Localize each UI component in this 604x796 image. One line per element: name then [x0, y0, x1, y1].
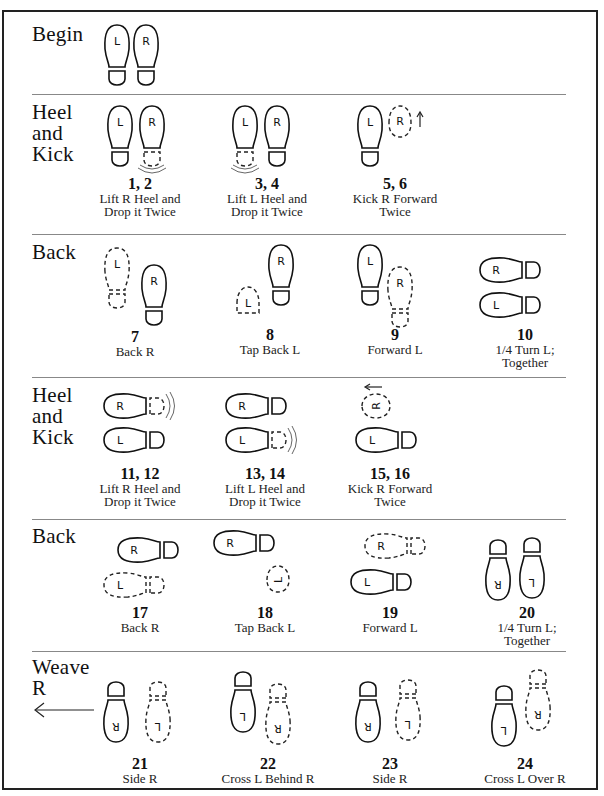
step-description: Forward L [330, 343, 460, 356]
step-number: 9 [330, 327, 460, 343]
step-18-figure: R L [210, 525, 310, 601]
step-1-2-figure: L R [100, 105, 180, 177]
step-description: Tap Back L [200, 621, 330, 634]
footprint-icon: R [214, 531, 274, 555]
footprint-icon: L [492, 686, 516, 746]
step-5-6: 5, 6 Kick R Forward Twice [330, 176, 460, 218]
arrow-icon [32, 700, 96, 720]
section-label-heel-and-kick: Heel and Kick [32, 102, 74, 165]
step-number: 24 [460, 756, 590, 772]
footprint-icon: R [265, 106, 289, 166]
arrow-icon [365, 384, 382, 390]
svg-text:R: R [396, 277, 404, 290]
svg-text:L: L [367, 116, 374, 129]
step-number: 10 [460, 327, 590, 343]
step-description: Cross L Behind R [203, 772, 333, 785]
footprint-icon: L [520, 538, 544, 598]
step-7-figure: L R [100, 245, 180, 333]
step-20-figure: R L [478, 530, 558, 606]
svg-text:L: L [367, 255, 374, 268]
svg-text:L: L [369, 434, 376, 447]
section-label-back-2: Back [32, 526, 76, 547]
svg-text:R: R [492, 264, 500, 277]
step-description: Tap Back L [205, 343, 335, 356]
svg-text:L: L [114, 258, 121, 271]
divider [32, 234, 566, 235]
step-description: 1/4 Turn L; Together [460, 343, 590, 369]
step-17-figure: R L [100, 530, 200, 602]
step-17: 17 Back R [75, 605, 205, 634]
step-description: Lift R Heel and Drop it Twice [75, 482, 205, 508]
footprint-icon: L [108, 106, 132, 166]
step-number: 23 [325, 756, 455, 772]
step-18: 18 Tap Back L [200, 605, 330, 634]
svg-text:R: R [150, 275, 158, 288]
section-label-begin: Begin [32, 24, 83, 45]
footprint-icon: R [118, 538, 178, 562]
svg-text:L: L [239, 710, 246, 723]
step-5-6-figure: L R [350, 105, 430, 177]
step-15-16-figure: R L [350, 380, 440, 462]
step-7: 7 Back R [70, 329, 200, 358]
step-9: 9 Forward L [330, 327, 460, 356]
footprint-dashed-icon: L [146, 682, 170, 742]
svg-text:R: R [148, 116, 156, 129]
step-number: 1, 2 [75, 176, 205, 192]
step-3-4-figure: L R [225, 105, 305, 177]
step-8-figure: R L [228, 243, 308, 323]
step-number: 8 [205, 327, 335, 343]
step-description: Back R [70, 345, 200, 358]
svg-text:R: R [277, 255, 285, 268]
step-9-figure: L R [350, 243, 430, 335]
footprint-icon: R [269, 245, 293, 305]
footprint-dashed-icon: R [266, 684, 290, 744]
step-description: Kick R Forward Twice [325, 482, 455, 508]
svg-text:L: L [493, 299, 500, 312]
step-description: Lift L Heel and Drop it Twice [200, 482, 330, 508]
step-20: 20 1/4 Turn L; Together [462, 605, 592, 647]
footprint-icon: L [351, 570, 411, 594]
svg-text:R: R [130, 544, 138, 557]
step-23: 23 Side R [325, 756, 455, 785]
svg-text:R: R [274, 722, 282, 735]
svg-text:L: L [114, 35, 121, 48]
svg-text:L: L [245, 297, 252, 310]
svg-text:R: R [238, 400, 246, 413]
footprint-icon: R [480, 258, 540, 282]
step-8: 8 Tap Back L [205, 327, 335, 356]
footprint-icon: R [142, 265, 166, 325]
step-description: Side R [325, 772, 455, 785]
footprint-icon: R [226, 394, 286, 418]
svg-text:R: R [142, 35, 150, 48]
footprint-dashed-icon: L [396, 680, 420, 740]
footprint-icon: R [104, 394, 164, 418]
footprint-icon: L [356, 428, 416, 452]
step-13-14: 13, 14 Lift L Heel and Drop it Twice [200, 466, 330, 508]
footprint-dashed-icon: R [388, 267, 412, 327]
footprint-icon: L [233, 106, 257, 166]
footprint-icon: L [231, 672, 255, 732]
divider [32, 519, 566, 520]
section-label-back: Back [32, 242, 76, 263]
step-description: Lift R Heel and Drop it Twice [75, 192, 205, 218]
step-description: Side R [75, 772, 205, 785]
step-number: 5, 6 [330, 176, 460, 192]
step-description: Forward L [325, 621, 455, 634]
step-number: 7 [70, 329, 200, 345]
svg-text:L: L [500, 724, 507, 737]
footprint-dashed-icon: L [104, 573, 164, 597]
step-description: Cross L Over R [460, 772, 590, 785]
footprint-icon: R [486, 540, 510, 600]
divider [32, 94, 566, 95]
svg-text:R: R [494, 578, 502, 591]
footprint-dashed-icon: R [389, 106, 411, 137]
svg-text:L: L [117, 579, 124, 592]
svg-text:L: L [364, 576, 371, 589]
step-23-figure: R L [350, 660, 430, 760]
footprint-icon: L [104, 428, 164, 452]
footprint-icon: L [226, 428, 286, 452]
divider [32, 651, 566, 652]
footprint-dashed-icon: L [105, 248, 129, 308]
step-number: 15, 16 [325, 466, 455, 482]
step-1-2: 1, 2 Lift R Heel and Drop it Twice [75, 176, 205, 218]
